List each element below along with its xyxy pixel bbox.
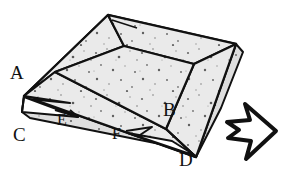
- label-f: F: [112, 125, 121, 142]
- direction-arrow: [227, 104, 276, 159]
- label-a: A: [10, 62, 24, 83]
- label-e: E: [57, 111, 67, 128]
- folded-paper-tray-figure: A B C D E F: [0, 0, 295, 180]
- figure-canvas: A B C D E F: [0, 0, 295, 180]
- label-c: C: [13, 124, 26, 145]
- label-d: D: [179, 149, 193, 170]
- direction-arrow-icon: [227, 104, 276, 159]
- label-b: B: [163, 99, 176, 120]
